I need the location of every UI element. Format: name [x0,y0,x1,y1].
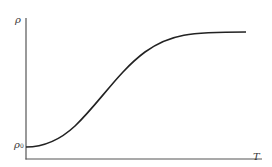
chart: ρ ρ0 T [0,0,272,167]
x-axis-label: T [253,152,260,162]
rho0-label: ρ0 [14,140,24,150]
sigmoid-curve [26,32,246,147]
plot-area [0,0,272,167]
y-axis-label: ρ [15,15,21,25]
